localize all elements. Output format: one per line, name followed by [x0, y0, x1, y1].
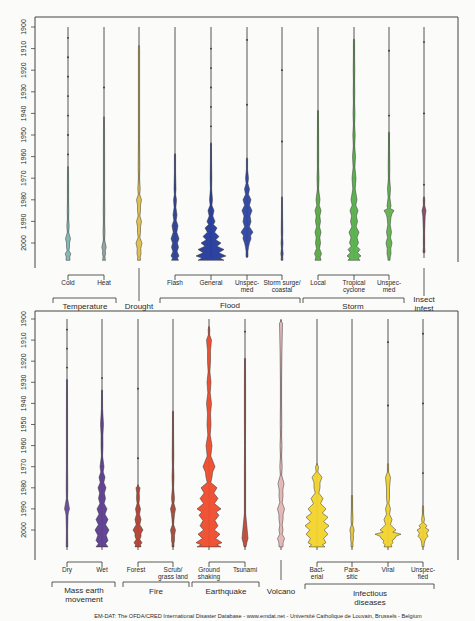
label-cold: Cold	[61, 279, 75, 286]
y-tick-label: 1970	[20, 459, 27, 475]
label-flood-unspec-2: med	[241, 286, 254, 293]
bottom-y-ticks: 1900191019201930194019501960197019801990…	[20, 311, 35, 538]
label-scrub-2: grass land	[158, 573, 188, 581]
top-y-ticks: 1900191019201930194019501960197019801990…	[20, 19, 35, 251]
label-general: General	[199, 279, 223, 286]
y-tick-label: 1990	[20, 214, 27, 230]
label-heat: Heat	[97, 279, 111, 286]
label-viral: Viral	[382, 566, 395, 573]
group-volcano: Volcano	[267, 587, 296, 596]
bean-parasitic	[350, 319, 354, 550]
disaster-bean-plot: 1900191019201930194019501960197019801990…	[0, 0, 475, 621]
group-infectious-2: diseases	[354, 598, 386, 607]
group-insect-2: infest	[414, 304, 434, 313]
bean-flash	[171, 27, 179, 260]
y-tick-label: 1960	[20, 438, 27, 454]
y-tick-label: 1990	[20, 501, 27, 517]
label-parasitic-1: Para-	[344, 566, 360, 573]
bean-unspec-med-flood-	[241, 27, 253, 258]
bean-local	[315, 27, 322, 260]
y-tick-label: 1920	[20, 353, 27, 369]
label-flash: Flash	[167, 279, 183, 286]
y-tick-label: 1900	[20, 19, 27, 35]
group-flood: Flood	[220, 301, 240, 310]
label-tropical-2: cyclone	[343, 286, 365, 294]
group-infectious-1: Infectious	[353, 589, 387, 598]
label-dry: Dry	[62, 566, 73, 574]
bean-heat	[102, 27, 106, 260]
bean-tropical-cyclone	[347, 27, 361, 260]
group-storm: Storm	[342, 302, 364, 311]
bean-wet	[95, 319, 109, 550]
y-tick-label: 1910	[20, 332, 27, 348]
bean-storm-surge-coastal	[281, 27, 283, 260]
bean-insect-infest	[422, 27, 426, 258]
group-fire: Fire	[149, 587, 163, 596]
y-tick-label: 1980	[20, 480, 27, 496]
group-temperature: Temperature	[63, 302, 108, 311]
y-tick-label: 1970	[20, 170, 27, 186]
bean-volcano	[278, 319, 285, 550]
label-scrub-1: Scrub/	[164, 566, 183, 573]
label-unspecified-2: fied	[418, 573, 429, 580]
label-tsunami: Tsunami	[233, 566, 257, 573]
label-ground-1: Ground	[198, 566, 220, 573]
group-mass-2: movement	[65, 595, 103, 604]
y-tick-label: 1980	[20, 192, 27, 208]
y-tick-label: 1950	[20, 417, 27, 433]
group-insect-1: Insect	[413, 295, 435, 304]
bottom-subtype-brackets	[52, 560, 434, 589]
group-earthquake: Earthquake	[206, 587, 247, 596]
bean-unspec-med-storm-	[384, 27, 394, 260]
group-mass-1: Mass earth	[64, 586, 104, 595]
y-tick-label: 1930	[20, 84, 27, 100]
bean-tsunami	[242, 319, 248, 550]
bean-unspecified	[417, 319, 429, 550]
label-wet: Wet	[96, 566, 108, 573]
y-tick-label: 1910	[20, 41, 27, 57]
bean-cold	[65, 27, 71, 260]
top-panel: 1900191019201930194019501960197019801990…	[20, 17, 458, 313]
y-tick-label: 1950	[20, 127, 27, 143]
label-forest: Forest	[127, 566, 146, 573]
y-tick-label: 2000	[20, 522, 27, 538]
y-tick-label: 1940	[20, 396, 27, 412]
group-drought: Drought	[125, 302, 154, 311]
bottom-panel: 1900191019201930194019501960197019801990…	[20, 311, 458, 607]
source-footer: EM-DAT: The OFDA/CRED International Disa…	[94, 613, 422, 619]
bottom-subtype-labels: Dry Wet Forest Scrub/ grass land Ground …	[62, 566, 435, 581]
y-tick-label: 1940	[20, 106, 27, 122]
label-ground-2: shaking	[198, 573, 221, 581]
top-subtype-labels: Cold Heat Flash General Unspec- med Stor…	[61, 279, 401, 294]
bean-general	[196, 27, 226, 260]
y-tick-label: 1900	[20, 311, 27, 327]
label-storm-unspec-2: med	[383, 286, 396, 293]
bean-dry	[65, 319, 70, 550]
y-tick-label: 1960	[20, 149, 27, 165]
bean-drought	[136, 27, 142, 260]
y-tick-label: 2000	[20, 235, 27, 251]
label-local: Local	[310, 279, 326, 286]
bean-ground-shaking	[196, 319, 222, 550]
label-parasitic-2: sitic	[346, 573, 358, 580]
bean-bacterial	[305, 319, 329, 550]
bean-forest	[133, 319, 143, 550]
bean-scrub-grass-land	[171, 319, 176, 550]
bottom-group-labels: Mass earth movement Fire Earthquake Volc…	[64, 586, 387, 607]
bottom-beans	[65, 319, 430, 550]
label-bacterial-2: erial	[311, 573, 324, 580]
top-beans	[65, 27, 426, 260]
label-surge-2: coastal	[272, 286, 293, 293]
y-tick-label: 1930	[20, 374, 27, 390]
label-bacterial-1: Bact-	[309, 566, 324, 573]
bean-viral	[375, 319, 401, 550]
y-tick-label: 1920	[20, 62, 27, 78]
